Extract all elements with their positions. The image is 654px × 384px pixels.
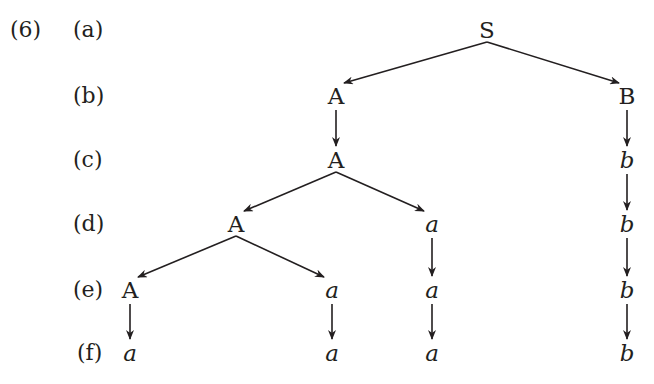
tree-node-A4: A [122,277,139,303]
edge-arrow-S-B [487,42,619,83]
edge-arrow-A2-A3 [244,172,336,211]
tree-edges [0,0,654,384]
tree-node-b4: b [620,340,635,366]
edge-arrow-S-A1 [344,42,487,83]
tree-node-b1: b [620,147,635,173]
edge-arrow-A3-a2 [236,236,324,277]
tree-node-a5: a [325,340,339,366]
tree-node-A1: A [328,83,345,109]
tree-node-a3: a [425,277,439,303]
edge-arrow-A3-A4 [138,236,236,277]
tree-node-a2: a [325,277,339,303]
tree-node-a4: a [123,340,137,366]
tree-node-b3: b [620,277,635,303]
tree-node-a6: a [425,340,439,366]
tree-node-S: S [479,17,495,43]
tree-node-A2: A [328,147,345,173]
tree-node-A3: A [228,211,245,237]
edge-arrow-A2-a1 [336,172,424,211]
tree-node-a1: a [425,211,439,237]
tree-node-b2: b [620,211,635,237]
tree-node-B: B [619,83,636,109]
